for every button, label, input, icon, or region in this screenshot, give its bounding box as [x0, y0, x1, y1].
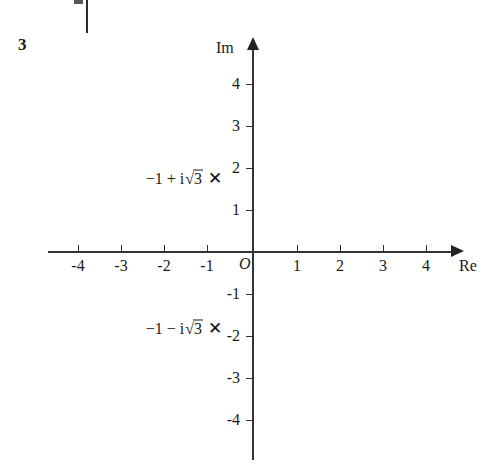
y-tick-label: 4	[210, 76, 240, 92]
imaginary-axis-arrow-icon	[247, 37, 259, 50]
origin-label: O	[239, 256, 251, 272]
y-tick-mark	[246, 168, 254, 169]
y-tick-mark	[246, 126, 254, 127]
x-tick-mark	[340, 245, 341, 253]
data-point-label: −1 + i√3	[60, 170, 203, 187]
x-tick-label: 3	[379, 258, 387, 274]
real-axis-line	[48, 251, 453, 253]
data-point-label: −1 − i√3	[60, 320, 203, 337]
x-tick-label: -2	[157, 258, 170, 274]
x-tick-label: 2	[336, 258, 344, 274]
y-tick-label: -4	[204, 412, 240, 428]
x-tick-mark	[78, 245, 79, 253]
x-tick-mark	[121, 245, 122, 253]
x-tick-mark	[426, 245, 427, 253]
imaginary-axis-line	[252, 48, 254, 460]
x-tick-label: 1	[293, 258, 301, 274]
x-tick-mark	[383, 245, 384, 253]
real-axis-arrow-icon	[451, 245, 464, 257]
y-tick-mark	[246, 378, 254, 379]
page-canvas: 3 Re Im O -4 -3 -2 -1 1 2 3 4 4	[0, 0, 487, 471]
data-point-marker: ✕	[208, 170, 222, 187]
radicand: 3	[193, 320, 203, 337]
data-point-label-prefix: −1 − i	[146, 320, 185, 337]
x-tick-mark	[297, 245, 298, 253]
imaginary-axis-label: Im	[216, 40, 234, 56]
x-tick-label: 4	[422, 258, 430, 274]
y-tick-mark	[246, 294, 254, 295]
real-axis-label: Re	[459, 258, 477, 274]
y-tick-label: 1	[210, 202, 240, 218]
x-tick-label: -3	[114, 258, 127, 274]
data-point-marker: ✕	[208, 320, 222, 337]
sqrt-icon: √3	[184, 320, 203, 337]
y-tick-label: 3	[210, 118, 240, 134]
y-tick-mark	[246, 84, 254, 85]
y-tick-mark	[246, 420, 254, 421]
y-tick-label: -3	[204, 370, 240, 386]
x-tick-mark	[207, 245, 208, 253]
data-point-label-prefix: −1 + i	[146, 170, 185, 187]
argand-diagram: Re Im O -4 -3 -2 -1 1 2 3 4 4 3 2 1 -1 -…	[0, 0, 487, 471]
sqrt-icon: √3	[184, 170, 203, 187]
radicand: 3	[193, 170, 203, 187]
x-tick-label: -4	[71, 258, 84, 274]
y-tick-mark	[246, 336, 254, 337]
x-tick-label: -1	[200, 258, 213, 274]
y-tick-label: -1	[204, 286, 240, 302]
y-tick-mark	[246, 210, 254, 211]
x-tick-mark	[164, 245, 165, 253]
